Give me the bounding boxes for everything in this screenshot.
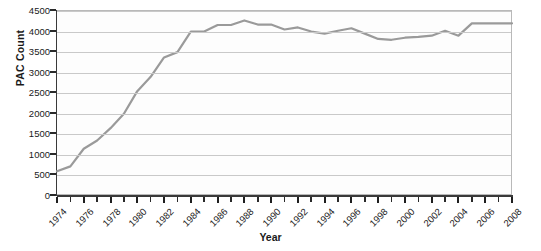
x-tick-label: 2002 [416, 206, 444, 234]
pac-count-series-line [57, 11, 512, 196]
plot-area [57, 10, 512, 195]
pac-count-line-chart: PAC Count 050010001500200025003000350040… [0, 0, 541, 251]
x-tick-label: 1998 [362, 206, 390, 234]
gridline [57, 11, 511, 12]
gridline [57, 114, 511, 115]
x-tick-label: 2004 [443, 206, 471, 234]
gridline [57, 73, 511, 74]
x-tick-label: 1978 [95, 206, 123, 234]
gridline [57, 32, 511, 33]
series-path [57, 20, 512, 171]
gridline [57, 175, 511, 176]
x-tick-label: 1984 [175, 206, 203, 234]
x-tick-label: 2006 [469, 206, 497, 234]
x-tick-label: 1996 [336, 206, 364, 234]
gridline [57, 93, 511, 94]
x-tick-label: 2000 [389, 206, 417, 234]
x-tick-label: 1992 [282, 206, 310, 234]
x-tick-label: 1988 [229, 206, 257, 234]
gridline [57, 155, 511, 156]
y-axis-tick-marks [0, 10, 60, 195]
x-axis-title: Year [0, 231, 541, 243]
x-tick-label: 1986 [202, 206, 230, 234]
x-tick-label: 1976 [68, 206, 96, 234]
gridline [57, 52, 511, 53]
x-tick-label: 1980 [121, 206, 149, 234]
x-tick-label: 1994 [309, 206, 337, 234]
x-tick-label: 2008 [496, 206, 524, 234]
x-tick-label: 1990 [255, 206, 283, 234]
gridline [57, 134, 511, 135]
x-tick-label: 1974 [41, 206, 69, 234]
x-tick-label: 1982 [148, 206, 176, 234]
